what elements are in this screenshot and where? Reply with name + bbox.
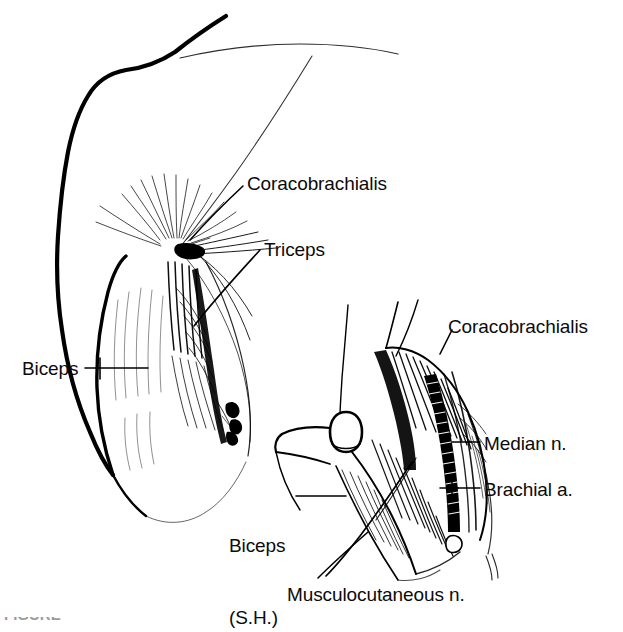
figure-caption-text: FIGURE — [4, 617, 61, 623]
vessel-cross-section — [446, 535, 462, 552]
label-median-nerve: Median n. — [484, 432, 567, 455]
label-triceps: Triceps — [264, 238, 325, 261]
label-biceps-short-head-line1: Biceps — [229, 534, 285, 558]
figure-caption-strip: FIGURE — [0, 617, 623, 626]
label-coracobrachialis-left: Coracobrachialis — [247, 172, 387, 195]
label-brachial-artery: Brachial a. — [484, 478, 573, 501]
label-musculocutaneous-nerve: Musculocutaneous n. — [287, 583, 465, 606]
label-biceps: Biceps — [22, 357, 78, 380]
label-coracobrachialis-right: Coracobrachialis — [448, 315, 588, 338]
label-biceps-short-head: Biceps (S.H.) — [229, 486, 285, 632]
